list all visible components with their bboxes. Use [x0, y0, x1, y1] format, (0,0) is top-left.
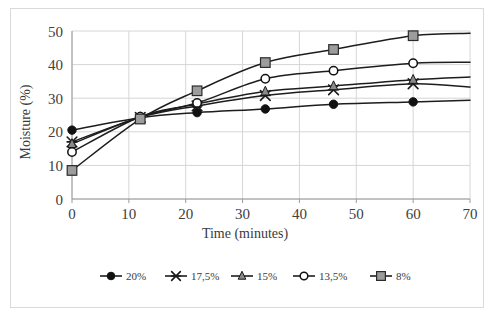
x-tick-label: 10 — [121, 206, 136, 222]
data-series — [67, 79, 470, 147]
y-axis-title: Moisture (%) — [18, 84, 34, 159]
marker-open-circle — [68, 148, 76, 156]
x-tick-label: 30 — [235, 206, 250, 222]
marker-open-circle — [300, 272, 308, 280]
y-tick-label: 20 — [48, 124, 63, 140]
x-tick-label: 60 — [406, 206, 421, 222]
y-tick-label: 0 — [56, 192, 64, 208]
series-line — [72, 62, 470, 152]
marker-filled-square — [67, 166, 77, 176]
x-tick-label: 40 — [292, 206, 307, 222]
marker-open-circle — [409, 59, 417, 67]
marker-filled-circle — [409, 98, 417, 106]
legend-label: 8% — [396, 270, 411, 282]
marker-filled-square — [377, 272, 386, 281]
legend-item[interactable]: 13,5% — [293, 270, 347, 282]
x-axis-tick-labels: 010203040506070 — [68, 206, 477, 222]
x-tick-label: 20 — [178, 206, 193, 222]
legend-item[interactable]: 17,5% — [165, 270, 219, 282]
marker-filled-square — [261, 58, 271, 68]
legend-label: 13,5% — [319, 270, 347, 282]
x-axis-title: Time (minutes) — [202, 226, 289, 242]
x-tick-label: 70 — [463, 206, 478, 222]
marker-filled-circle — [107, 272, 115, 280]
legend-item[interactable]: 8% — [370, 270, 411, 282]
marker-open-circle — [329, 66, 337, 74]
legend-label: 17,5% — [191, 270, 219, 282]
data-series — [68, 98, 470, 135]
y-tick-label: 10 — [48, 158, 63, 174]
marker-filled-square — [135, 114, 145, 124]
marker-filled-square — [329, 45, 339, 55]
marker-cross-x — [172, 272, 181, 281]
legend-item[interactable]: 20% — [100, 270, 146, 282]
marker-filled-square — [408, 31, 418, 41]
chart-figure: 01020304050 010203040506070 Time (minute… — [0, 0, 494, 320]
marker-filled-circle — [329, 100, 337, 108]
legend-label: 20% — [126, 270, 146, 282]
x-tick-label: 50 — [349, 206, 364, 222]
gridlines — [72, 31, 470, 199]
legend-item[interactable]: 15% — [231, 270, 277, 282]
series-line — [72, 84, 470, 142]
marker-open-circle — [261, 75, 269, 83]
legend-label: 15% — [257, 270, 277, 282]
moisture-vs-time-line-chart: 01020304050 010203040506070 Time (minute… — [0, 0, 494, 320]
marker-filled-square — [192, 86, 202, 96]
y-axis-tick-labels: 01020304050 — [48, 24, 63, 208]
x-tick-label: 0 — [68, 206, 76, 222]
chart-legend: 20%17,5%15%13,5%8% — [100, 270, 411, 282]
marker-open-circle — [193, 99, 201, 107]
y-tick-label: 50 — [48, 24, 63, 40]
y-tick-label: 30 — [48, 91, 63, 107]
y-tick-label: 40 — [48, 57, 63, 73]
data-series-layer — [67, 31, 470, 175]
marker-filled-circle — [68, 126, 76, 134]
axis-lines — [72, 31, 470, 203]
marker-filled-circle — [261, 105, 269, 113]
